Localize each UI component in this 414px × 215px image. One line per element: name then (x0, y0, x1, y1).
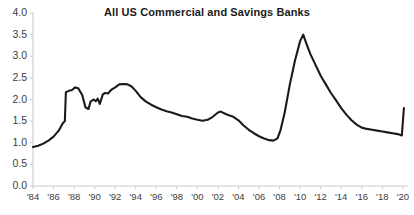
chart-container: All US Commercial and Savings Banks 0.00… (0, 0, 414, 215)
data-series-line (33, 35, 404, 147)
chart-plot-area (0, 0, 414, 215)
